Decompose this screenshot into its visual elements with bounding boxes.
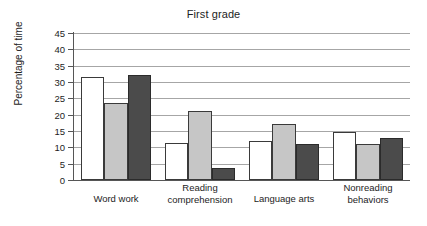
- y-axis-tick-label: 40: [54, 44, 65, 55]
- bar: [380, 138, 404, 180]
- chart-title: First grade: [0, 8, 427, 20]
- bar: [212, 168, 236, 180]
- bar: [188, 111, 212, 180]
- y-axis-tick-label: 45: [54, 28, 65, 39]
- x-axis-category-label: Nonreading behaviors: [318, 182, 418, 205]
- bar: [272, 124, 296, 180]
- y-axis-tick-label: 0: [60, 175, 65, 186]
- y-axis-tick: [68, 180, 74, 181]
- y-axis-tick-label: 35: [54, 60, 65, 71]
- bar: [104, 103, 128, 180]
- y-axis-title: Percentage of time: [13, 0, 24, 129]
- y-axis-tick-label: 5: [60, 158, 65, 169]
- bar: [165, 143, 189, 180]
- y-axis-tick-label: 15: [54, 126, 65, 137]
- bar: [81, 77, 105, 180]
- plot-area: 051015202530354045: [74, 33, 410, 180]
- bar: [249, 141, 273, 180]
- y-axis-tick-label: 30: [54, 77, 65, 88]
- y-axis-tick-label: 20: [54, 109, 65, 120]
- bar: [128, 75, 152, 180]
- y-axis-tick-label: 10: [54, 142, 65, 153]
- chart-figure: First grade Percentage of time 051015202…: [0, 0, 427, 226]
- y-axis-tick-label: 25: [54, 93, 65, 104]
- bar: [296, 144, 320, 180]
- bar: [356, 144, 380, 180]
- bar: [333, 132, 357, 180]
- bars-layer: [74, 33, 410, 180]
- x-axis-line: [68, 180, 410, 181]
